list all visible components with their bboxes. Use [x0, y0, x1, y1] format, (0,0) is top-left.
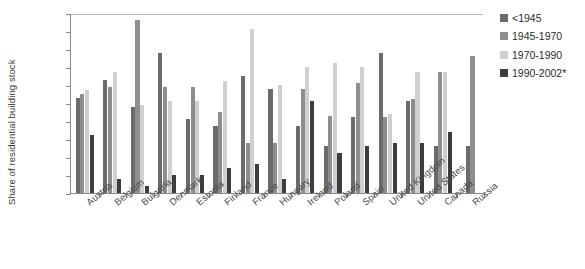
bar — [135, 20, 139, 193]
legend-item: 1990-2002* — [500, 68, 566, 79]
bar — [356, 83, 360, 193]
bar-group — [99, 14, 127, 193]
bar-group — [264, 14, 292, 193]
legend-item: 1945-1970 — [500, 31, 566, 42]
chart-legend: <19451945-19701970-19901990-2002* — [500, 12, 566, 79]
bar — [80, 94, 84, 193]
bar — [310, 101, 314, 193]
plot-area: 0%5%10%15%20%25%30%35%40%45%50% — [70, 14, 483, 194]
bar — [360, 67, 364, 193]
bar — [388, 114, 392, 193]
y-axis-tick-mark — [66, 194, 71, 195]
bar-chart: Share of residential building stock 0%5%… — [0, 0, 585, 269]
bar — [227, 168, 231, 193]
bar — [268, 89, 272, 193]
bar — [158, 53, 162, 193]
bar — [250, 29, 254, 193]
bar-group — [126, 14, 154, 193]
legend-label: 1970-1990 — [512, 49, 562, 61]
legend-swatch — [500, 51, 508, 59]
bar-group — [154, 14, 182, 193]
bar — [103, 80, 107, 193]
bar-group — [346, 14, 374, 193]
bar — [241, 76, 245, 193]
bar — [108, 87, 112, 193]
bar-group — [319, 14, 347, 193]
bar — [337, 153, 341, 193]
legend-swatch — [500, 69, 508, 77]
bar — [113, 72, 117, 193]
bar — [379, 53, 383, 193]
bar — [305, 67, 309, 193]
bar — [333, 63, 337, 193]
legend-label: <1945 — [512, 12, 542, 24]
legend-label: 1990-2002* — [512, 67, 566, 79]
legend-label: 1945-1970 — [512, 30, 562, 42]
bar-group — [291, 14, 319, 193]
bar — [470, 56, 474, 193]
legend-swatch — [500, 14, 508, 22]
bar-group — [209, 14, 237, 193]
bar — [76, 98, 80, 193]
bar — [223, 81, 227, 193]
legend-item: 1970-1990 — [500, 49, 566, 60]
bar-group — [71, 14, 99, 193]
bar-group — [181, 14, 209, 193]
legend-swatch — [500, 32, 508, 40]
bar-group — [236, 14, 264, 193]
legend-item: <1945 — [500, 12, 566, 23]
bar — [365, 146, 369, 193]
bar — [393, 143, 397, 193]
bar — [383, 117, 387, 193]
bar — [278, 85, 282, 193]
bar-group — [374, 14, 402, 193]
y-axis-title: Share of residential building stock — [6, 5, 26, 205]
bar — [90, 135, 94, 193]
bar — [255, 164, 259, 193]
bar — [85, 90, 89, 193]
